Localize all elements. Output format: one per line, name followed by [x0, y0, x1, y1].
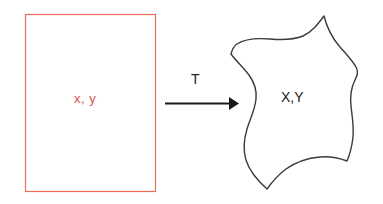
source-region-label: x, y — [74, 92, 96, 105]
diagram-graphics — [0, 0, 383, 204]
diagram-canvas: x, y T X,Y — [0, 0, 383, 204]
target-region-label: X,Y — [281, 90, 304, 104]
mapping-arrow-head — [229, 97, 239, 110]
mapping-arrow-label: T — [191, 72, 200, 86]
